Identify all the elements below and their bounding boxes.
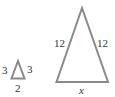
large-left-side-label: 12 [54, 37, 65, 49]
small-triangle-shape [12, 61, 25, 79]
triangles-diagram: 3 3 2 12 12 x [0, 0, 115, 97]
large-triangle: 12 12 x [54, 8, 108, 96]
small-right-side-label: 3 [27, 63, 33, 75]
small-left-side-label: 3 [2, 64, 8, 76]
large-right-side-label: 12 [97, 37, 108, 49]
small-triangle: 3 3 2 [2, 61, 33, 94]
small-base-label: 2 [15, 82, 21, 94]
large-base-label: x [78, 84, 84, 96]
